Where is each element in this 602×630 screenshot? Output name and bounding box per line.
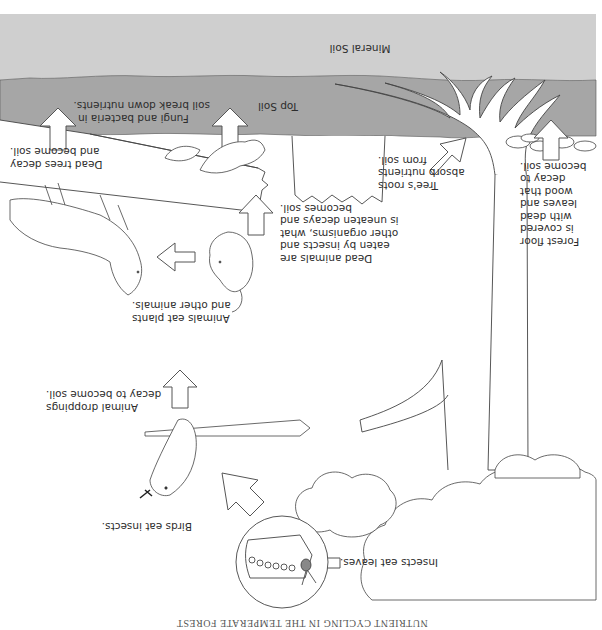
caption-dead-trees: Dead trees decay and become soil. <box>10 146 116 171</box>
mineral-soil-layer <box>0 14 596 81</box>
insect-magnifier <box>236 516 328 608</box>
label-top-soil: Top Soil <box>248 100 308 113</box>
label-mineral-soil: Mineral Soil <box>320 42 400 55</box>
caption-animals-eat: Animals eat plants and other animals. <box>132 300 232 325</box>
arrow-animals-left <box>157 243 195 271</box>
caption-fungi: Fungi and bacteria in soil break down nu… <box>78 100 210 125</box>
diagram-title: NUTRIENT CYCLING IN THE TEMPERATE FOREST <box>152 618 452 629</box>
tree-stump <box>292 136 385 204</box>
bird <box>150 419 196 496</box>
caption-forest-floor: Forest floor is covered with dead leaves… <box>520 160 602 248</box>
caterpillar-leaf <box>246 535 312 578</box>
nutrient-cycle-diagram: Mineral Soil Top Soil Fungi and bacteria… <box>0 0 602 630</box>
diagram-artwork <box>0 0 602 630</box>
caption-droppings: Animal droppings decay to become soil. <box>46 389 162 414</box>
fox <box>10 183 142 295</box>
arrow-droppings-up <box>163 370 197 408</box>
bush-upper <box>495 455 580 478</box>
tree-branch <box>360 360 448 432</box>
caption-birds: Birds eat insects. <box>110 520 192 533</box>
caption-dead-animals: Dead animals are eaten by insects and ot… <box>280 202 402 265</box>
bushes <box>296 455 596 600</box>
caption-insects: Insects eat leaves. <box>346 556 438 569</box>
bird-eye <box>165 487 167 489</box>
bush-right <box>361 464 596 600</box>
caption-tree-roots: Tree's roots absorb nutrients from soil. <box>378 154 468 192</box>
arrow-birds <box>222 473 264 516</box>
branch <box>145 420 310 436</box>
insect-in-beak <box>140 490 152 498</box>
